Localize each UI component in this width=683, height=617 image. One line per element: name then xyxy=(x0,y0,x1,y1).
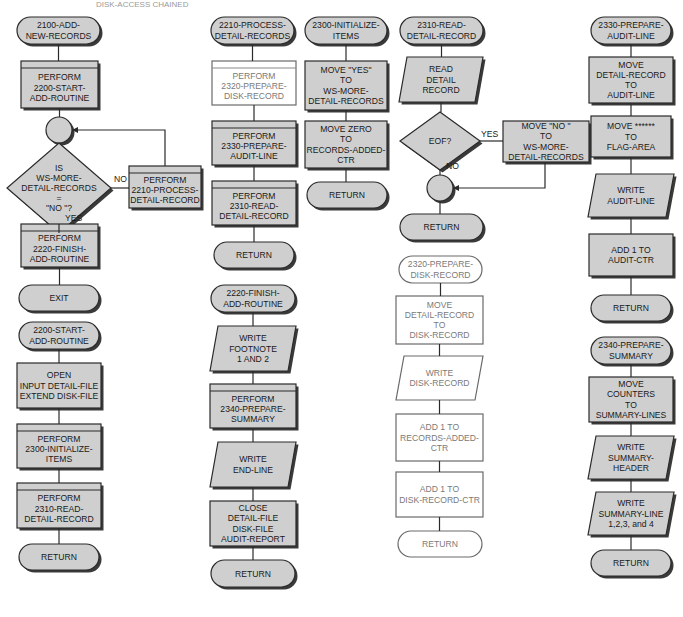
shape-label: EOF? xyxy=(429,136,452,146)
shape-label: RETURN xyxy=(41,552,77,562)
step-write-footnote: WRITEFOOTNOTE1 AND 2 xyxy=(210,326,299,374)
edge-label-yes-eof: YES xyxy=(481,129,498,139)
step-open-files: OPENINPUT DETAIL-FILEEXTEND DISK-FILE xyxy=(17,363,104,411)
step-perform-2310-read-2: PERFORM2310-READ-DETAIL-RECORD xyxy=(212,181,299,228)
terminal-2210-return: RETURN xyxy=(214,242,297,271)
terminal-2220-finish-add-routine: 2220-FINISH-ADD-ROUTINE xyxy=(211,285,298,315)
shape-label: RETURN xyxy=(329,190,365,200)
step-close-files: CLOSEDETAIL-FILEDISK-FILEAUDIT-REPORT xyxy=(210,501,299,549)
step-perform-2310-read: PERFORM2310-READ-DETAIL-RECORD xyxy=(17,483,104,531)
shape-label: 2200-START-ADD-ROUTINE xyxy=(29,325,89,345)
step-add-audit-ctr: ADD 1 TOAUDIT-CTR xyxy=(589,234,676,279)
terminal-2310-return: RETURN xyxy=(400,214,486,243)
step-write-audit-line: WRITEAUDIT-LINE xyxy=(588,174,677,220)
terminal-2220-return: RETURN xyxy=(211,560,298,590)
shape-label: RETURN xyxy=(424,222,460,232)
edge-label-yes: YES xyxy=(65,213,82,223)
flow-line xyxy=(72,130,165,166)
step-add-records-added: ADD 1 TORECORDS-ADDED-CTR xyxy=(396,414,483,461)
shape-label: EXIT xyxy=(49,293,69,303)
terminal-2310-read-detail-record: 2310-READ-DETAIL-RECORD xyxy=(400,17,486,47)
shape-label: RETURN xyxy=(236,250,272,260)
step-move-no: MOVE "NO "TOWS-MORE-DETAIL-RECORDS xyxy=(503,121,592,165)
connector-2100-loop xyxy=(46,117,75,146)
terminal-2330-prepare-audit-line: 2330-PREPARE-AUDIT-LINE xyxy=(591,17,674,47)
connector-2310-join xyxy=(427,175,456,204)
terminal-2320-return: RETURN xyxy=(398,531,482,557)
step-perform-2210-process: PERFORM2210-PROCESS-DETAIL-RECORD xyxy=(129,166,204,211)
step-move-detail-to-audit: MOVEDETAIL-RECORDTOAUDIT-LINE xyxy=(589,57,676,106)
terminal-2320-prepare-disk-record: 2320-PREPARE-DISK-RECORD xyxy=(399,256,482,283)
step-move-counters: MOVECOUNTERSTOSUMMARY-LINES xyxy=(589,377,676,425)
step-read-detail-record: READDETAILRECORD xyxy=(399,57,486,105)
terminal-2210-process-detail-records: 2210-PROCESS-DETAIL-RECORDS xyxy=(211,17,297,47)
shape-label: PERFORM2200-START-ADD-ROUTINE xyxy=(30,72,90,102)
shape-label: RETURN xyxy=(235,569,271,579)
terminal-2200-return: RETURN xyxy=(19,544,102,573)
flow-line xyxy=(453,162,545,188)
step-move-zero: MOVE ZEROTORECORDS-ADDED-CTR xyxy=(305,121,390,171)
shape-label: ADD 1 TOAUDIT-CTR xyxy=(608,245,654,265)
flowchart-canvas: DISK-ACCESS CHAINED 2100-ADD-NEW-RECORDS… xyxy=(0,0,683,617)
shape-label: RETURN xyxy=(613,558,649,568)
step-perform-2320-prepare: PERFORM2320-PREPARE-DISK-RECORD xyxy=(212,61,296,105)
shape-label: 2220-FINISH-ADD-ROUTINE xyxy=(223,288,283,308)
step-write-end-line: WRITEEND-LINE xyxy=(210,442,299,490)
step-perform-2200-start: PERFORM2200-START-ADD-ROUTINE xyxy=(21,61,101,111)
shape-label: 2310-READ-DETAIL-RECORD xyxy=(407,20,477,40)
shape-label: 2210-PROCESS-DETAIL-RECORDS xyxy=(215,20,291,40)
edge-label-no-eof: NO xyxy=(446,161,459,171)
step-perform-2330-prepare: PERFORM2330-PREPARE-AUDIT-LINE xyxy=(212,121,299,168)
terminal-2340-return: RETURN xyxy=(591,550,674,579)
step-perform-2220-finish: PERFORM2220-FINISH-ADD-ROUTINE xyxy=(21,224,101,270)
edge-label-no: NO xyxy=(114,174,127,184)
step-write-disk-record: WRITEDISK-RECORD xyxy=(396,356,483,400)
step-perform-2300-initialize: PERFORM2300-INITIALIZE-ITEMS xyxy=(17,424,104,471)
terminal-2330-return: RETURN xyxy=(591,295,674,324)
terminal-exit: EXIT xyxy=(19,285,102,314)
step-add-disk-record-ctr: ADD 1 TODISK-RECORD-CTR xyxy=(396,472,483,517)
step-move-detail-to-disk: MOVEDETAIL-RECORDTODISK-RECORD xyxy=(396,296,483,344)
terminal-2100-add-new-records: 2100-ADD-NEW-RECORDS xyxy=(17,17,103,47)
terminal-2200-start-add-routine: 2200-START-ADD-ROUTINE xyxy=(19,322,102,352)
step-write-summary-lines: WRITESUMMARY-LINE1,2,3, and 4 xyxy=(588,492,677,538)
step-write-summary-header: WRITESUMMARY-HEADER xyxy=(588,436,677,482)
shape-label: RETURN xyxy=(613,303,649,313)
decision-more-detail-records: ISWS-MORE-DETAIL-RECORDS="NO "? xyxy=(7,143,114,236)
terminal-2340-prepare-summary: 2340-PREPARE-SUMMARY xyxy=(591,337,674,367)
terminal-2300-return: RETURN xyxy=(307,182,390,211)
step-move-yes: MOVE "YES"TOWS-MORE-DETAIL-RECORDS xyxy=(305,61,390,113)
shape-label: PERFORM2220-FINISH-ADD-ROUTINE xyxy=(30,233,90,263)
shape-label: 2320-PREPARE-DISK-RECORD xyxy=(408,259,473,279)
step-perform-2340-prepare: PERFORM2340-PREPARE-SUMMARY xyxy=(210,384,299,431)
shape-label: 2330-PREPARE-AUDIT-LINE xyxy=(598,20,663,40)
decision-eof: EOF? xyxy=(400,112,483,173)
step-move-flag: MOVE ******TOFLAG-AREA xyxy=(591,116,674,160)
shape-label: RETURN xyxy=(422,539,458,549)
terminal-2300-initialize-items: 2300-INITIALIZE-ITEMS xyxy=(305,17,390,47)
header-partial-text: DISK-ACCESS CHAINED xyxy=(96,0,189,9)
